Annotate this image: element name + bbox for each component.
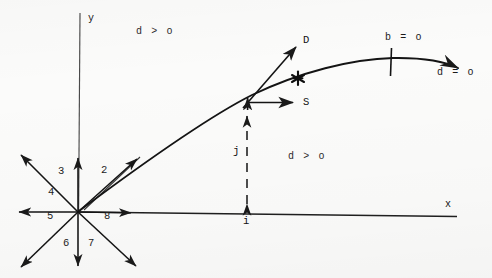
ray-label-3: 3 <box>58 166 65 177</box>
x-axis <box>78 212 457 217</box>
ray-label-5: 5 <box>47 211 54 222</box>
ray-label-6: 6 <box>63 238 70 249</box>
vector-label-S: S <box>303 97 310 108</box>
ray-label-8: 8 <box>104 211 111 222</box>
condition-d-eq-o: d = o <box>437 68 475 78</box>
vector-label-D: D <box>303 35 310 46</box>
condition-b-eq-o: b = o <box>385 33 423 43</box>
y-axis-label: y <box>88 14 95 24</box>
vector-label-j: j <box>233 146 240 157</box>
ray-label-7: 7 <box>88 238 95 249</box>
vector-D-arrow <box>243 47 296 108</box>
vector-label-i: i <box>243 216 250 227</box>
ray-label-2: 2 <box>101 165 108 176</box>
x-axis-label: x <box>445 200 452 210</box>
condition-d-gt-o-upper: d > o <box>136 27 174 37</box>
trajectory-figure: y x 2 3 4 5 6 7 8 D S j i d > o d > o b … <box>0 0 492 278</box>
y-axis <box>79 13 80 212</box>
asterisk-marker <box>292 72 304 86</box>
condition-d-gt-o-lower: d > o <box>288 152 326 162</box>
ray-label-4: 4 <box>48 187 55 198</box>
origin-ray-star <box>19 155 137 267</box>
trajectory-curve <box>79 58 458 211</box>
tick-b-equals-o <box>391 48 392 76</box>
ray-3 <box>21 155 78 212</box>
